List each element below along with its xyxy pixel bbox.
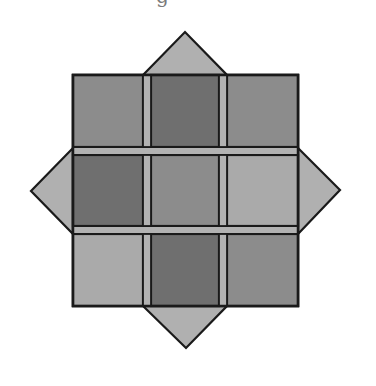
caption-text-fragment: g <box>156 0 169 6</box>
horizontal-sashing-strip-1 <box>73 147 298 155</box>
grid-cell-r3-c2 <box>151 234 219 306</box>
grid-cell-r1-c1 <box>73 75 143 147</box>
vertical-sashing-strip-2 <box>219 75 227 147</box>
grid-cell-r1-c2 <box>151 75 219 147</box>
vertical-sashing-strip-2 <box>219 234 227 306</box>
grid-cell-r2-c3 <box>227 155 298 226</box>
quilt-star-diagram: g <box>0 0 376 386</box>
vertical-sashing-strip-2 <box>219 155 227 226</box>
star-block-figure <box>0 0 376 386</box>
star-point-top <box>143 32 227 75</box>
star-point-right <box>298 148 340 234</box>
vertical-sashing-strip-1 <box>143 234 151 306</box>
grid-cell-r2-c2 <box>151 155 219 226</box>
grid-cell-r1-c3 <box>227 75 298 147</box>
star-point-bottom <box>143 306 227 348</box>
vertical-sashing-strip-1 <box>143 155 151 226</box>
grid-cell-r2-c1 <box>73 155 143 226</box>
horizontal-sashing-strip-2 <box>73 226 298 234</box>
grid-cell-r3-c1 <box>73 234 143 306</box>
star-point-left <box>31 148 73 234</box>
vertical-sashing-strip-1 <box>143 75 151 147</box>
grid-cell-r3-c3 <box>227 234 298 306</box>
